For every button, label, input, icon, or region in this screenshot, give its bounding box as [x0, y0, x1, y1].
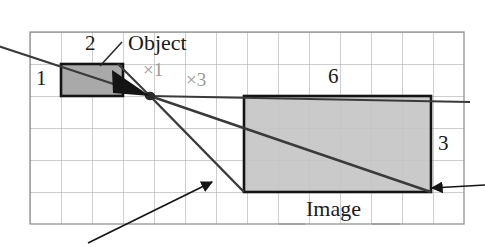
- label-image: Image: [306, 198, 361, 220]
- label-magnification-three: ×3: [186, 70, 206, 89]
- label-magnification-one: ×1: [143, 60, 163, 79]
- label-image-width: 6: [328, 66, 339, 87]
- image-rectangle: [244, 96, 431, 192]
- figure-canvas: 1 2 Object ×1 ×3 6 3 Image: [0, 0, 485, 247]
- label-object-height: 1: [36, 68, 47, 89]
- optics-ray-diagram: [0, 0, 485, 247]
- label-image-height: 3: [438, 133, 449, 154]
- label-object: Object: [128, 32, 187, 54]
- label-object-width: 2: [85, 33, 96, 54]
